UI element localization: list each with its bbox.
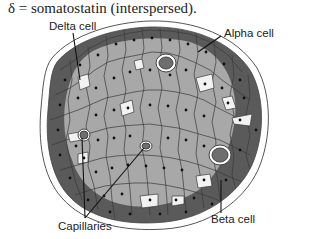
beta-cell-label: Beta cell (211, 213, 255, 225)
delta-cell-label: Delta cell (49, 20, 96, 32)
alpha-cell-label: Alpha cell (224, 27, 274, 39)
capillaries-label: Capillaries (58, 220, 112, 232)
